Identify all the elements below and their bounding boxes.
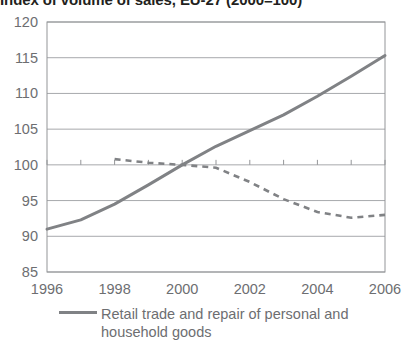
chart-figure: Index of volume of sales, EU-27 (2000=10… bbox=[0, 0, 414, 358]
y-axis-tick-label: 120 bbox=[14, 14, 38, 30]
y-axis-tick-label: 115 bbox=[15, 50, 38, 66]
x-axis-tick-label: 1998 bbox=[98, 281, 130, 297]
x-axis-tick-label: 2002 bbox=[234, 281, 266, 297]
plot-area: 859095100105110115120 199619982000200220… bbox=[0, 0, 414, 300]
y-axis-tick-label: 85 bbox=[22, 264, 38, 280]
x-axis-tick-label: 2000 bbox=[166, 281, 198, 297]
legend-line-swatch bbox=[59, 305, 97, 319]
x-axis-tick-label: 2004 bbox=[301, 281, 333, 297]
x-axis-tick-label: 2006 bbox=[369, 281, 401, 297]
y-axis-tick-labels: 859095100105110115120 bbox=[14, 14, 38, 280]
y-axis-tick-label: 95 bbox=[22, 193, 38, 209]
y-axis-tick-label: 90 bbox=[22, 228, 38, 244]
y-axis-tick-label: 110 bbox=[15, 85, 38, 101]
legend-item-label: Retail trade and repair of personal and … bbox=[101, 305, 369, 341]
x-axis-tick-labels: 199619982000200220042006 bbox=[31, 281, 401, 297]
chart-legend: Retail trade and repair of personal and … bbox=[59, 305, 409, 341]
y-axis-tick-label: 105 bbox=[14, 121, 38, 137]
y-axis-tick-label: 100 bbox=[14, 157, 38, 173]
x-axis-tick-label: 1996 bbox=[31, 281, 63, 297]
